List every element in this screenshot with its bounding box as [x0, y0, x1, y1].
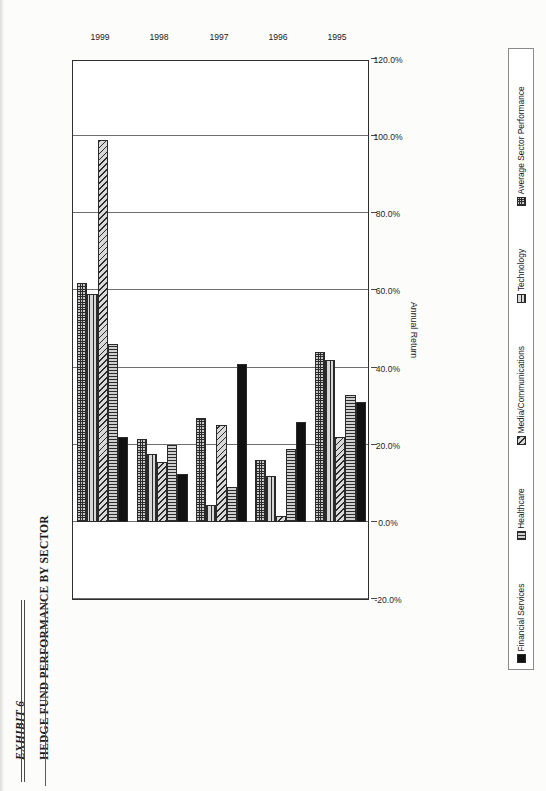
bar-average-sector-performance-1995 — [315, 352, 325, 522]
scanned-page: EXHIBIT 6 HEDGE FUND PERFORMANCE BY SECT… — [0, 0, 546, 791]
bar-media-communications-1997 — [216, 425, 226, 521]
chart-legend: Financial ServicesHealthcareMedia/Commun… — [508, 48, 534, 670]
legend-swatch-icon — [517, 197, 526, 206]
plot-area — [72, 60, 369, 600]
legend-item-media-communications[interactable]: Media/Communications — [516, 346, 526, 445]
bar-technology-1996 — [266, 476, 276, 522]
bar-technology-1997 — [206, 505, 216, 522]
bar-media-communications-1998 — [157, 462, 167, 522]
category-label-1997: 1997 — [202, 32, 236, 42]
bar-technology-1995 — [325, 360, 335, 522]
exhibit-rule-top — [21, 600, 22, 782]
title-rule — [45, 600, 46, 786]
bar-group — [311, 61, 370, 599]
bar-healthcare-1998 — [167, 445, 177, 522]
axis-tick-label: 0.0% — [368, 518, 408, 528]
axis-tick-label: 120.0% — [368, 55, 408, 65]
bar-media-communications-1999 — [98, 140, 108, 522]
legend-label: Average Sector Performance — [516, 86, 526, 194]
legend-item-average-sector-performance[interactable]: Average Sector Performance — [516, 86, 526, 205]
bar-financial-services-1996 — [296, 422, 306, 522]
legend-label: Media/Communications — [516, 346, 526, 434]
legend-swatch-icon — [517, 531, 526, 540]
legend-item-healthcare[interactable]: Healthcare — [516, 488, 526, 540]
value-axis-title: Annual Return — [409, 270, 419, 390]
legend-item-technology[interactable]: Technology — [516, 249, 526, 303]
legend-item-financial-services[interactable]: Financial Services — [516, 584, 526, 663]
legend-label: Financial Services — [516, 584, 526, 652]
bar-technology-1999 — [87, 294, 97, 522]
category-label-1999: 1999 — [83, 32, 117, 42]
exhibit-rule-bottom — [24, 600, 25, 782]
axis-tick-label: 100.0% — [368, 132, 408, 142]
bar-financial-services-1997 — [237, 364, 247, 522]
legend-swatch-icon — [517, 294, 526, 303]
bar-media-communications-1996 — [276, 516, 286, 522]
bar-healthcare-1999 — [108, 344, 118, 521]
bar-healthcare-1997 — [227, 487, 237, 522]
legend-label: Healthcare — [516, 488, 526, 529]
bar-healthcare-1995 — [345, 395, 355, 522]
category-label-1996: 1996 — [261, 32, 295, 42]
legend-swatch-icon — [517, 654, 526, 663]
bar-group — [192, 61, 251, 599]
axis-tick-label: -20.0% — [368, 595, 408, 605]
page-title: HEDGE FUND PERFORMANCE BY SECTOR — [38, 515, 50, 760]
axis-tick-label: 20.0% — [368, 441, 408, 451]
bar-group — [251, 61, 310, 599]
bar-media-communications-1995 — [335, 437, 345, 522]
bar-technology-1998 — [147, 454, 157, 522]
bar-financial-services-1995 — [356, 402, 366, 522]
axis-tick-label: 60.0% — [368, 286, 408, 296]
bar-group — [132, 61, 191, 599]
category-label-1998: 1998 — [142, 32, 176, 42]
bar-group — [73, 61, 132, 599]
bar-healthcare-1996 — [286, 449, 296, 522]
axis-tick-label: 40.0% — [368, 364, 408, 374]
bar-financial-services-1998 — [177, 474, 187, 522]
bar-average-sector-performance-1997 — [196, 418, 206, 522]
chart-container: Annual Return 120.0%100.0%80.0%60.0%40.0… — [58, 60, 403, 660]
legend-label: Technology — [516, 249, 526, 291]
category-label-1995: 1995 — [320, 32, 354, 42]
legend-swatch-icon — [517, 436, 526, 445]
axis-tick-label: 80.0% — [368, 209, 408, 219]
bar-average-sector-performance-1998 — [137, 439, 147, 522]
bar-average-sector-performance-1999 — [77, 283, 87, 522]
bar-average-sector-performance-1996 — [255, 460, 265, 522]
bar-financial-services-1999 — [118, 437, 128, 522]
scan-edge-artifact — [0, 0, 4, 791]
